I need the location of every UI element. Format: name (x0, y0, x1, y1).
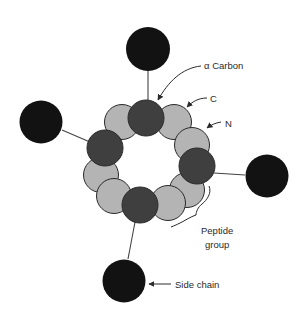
carbon-label: C (210, 93, 217, 104)
alpha-carbon-atom (122, 187, 158, 223)
side-chains (20, 27, 289, 303)
bond-right (214, 173, 245, 175)
side-chain-top (126, 27, 170, 71)
c-arrow (187, 98, 207, 107)
side-chain-right (246, 155, 289, 198)
alpha-helix-diagram: α Carbon C N Peptide group Side chain (0, 0, 304, 318)
side-chain-left (20, 101, 63, 144)
n-arrow (207, 122, 221, 128)
peptide-group-label-line1: Peptide (201, 225, 233, 236)
alpha-carbon-atom (87, 130, 123, 166)
alpha-carbon-label: α Carbon (204, 60, 243, 71)
bond-bottom (128, 222, 135, 259)
helix-ring (84, 100, 216, 223)
alpha-carbon-atom (128, 100, 164, 136)
nitrogen-label: N (225, 118, 232, 129)
peptide-group-label-line2: group (205, 239, 229, 250)
side-chain-label: Side chain (175, 279, 219, 290)
alpha-carbon-arrow (158, 66, 201, 100)
bond-left (62, 130, 90, 142)
side-chain-bottom (103, 260, 146, 303)
alpha-carbon-atom (179, 148, 215, 184)
